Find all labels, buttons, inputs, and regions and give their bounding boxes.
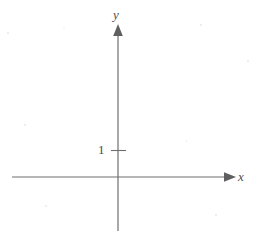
axes-figure: y x 1	[0, 0, 259, 237]
y-axis-label: y	[113, 8, 119, 21]
y-axis-tick-label-1: 1	[98, 143, 105, 156]
y-axis-arrow-icon	[113, 24, 123, 36]
axes-drawing	[0, 0, 259, 237]
x-axis-arrow-icon	[224, 172, 236, 182]
x-axis-label: x	[238, 170, 244, 183]
